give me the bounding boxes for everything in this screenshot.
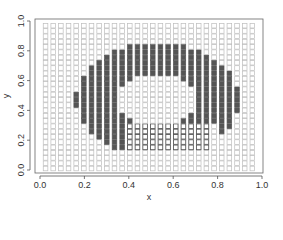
point-background [59, 113, 64, 118]
point-background [82, 39, 87, 44]
point-filled [105, 87, 110, 92]
point-background [59, 108, 64, 113]
point-filled [128, 50, 133, 55]
point-filled [74, 92, 79, 97]
point-filled [173, 60, 178, 65]
point-background [250, 113, 255, 118]
point-background [66, 50, 71, 55]
point-outlined-dark [135, 129, 140, 134]
point-background [250, 161, 255, 166]
point-background [219, 156, 224, 161]
point-background [250, 76, 255, 81]
point-filled [227, 119, 232, 124]
point-background [227, 50, 232, 55]
point-background [66, 23, 71, 28]
point-background [51, 119, 56, 124]
point-background [105, 34, 110, 39]
point-filled [212, 119, 217, 124]
point-background [89, 55, 94, 60]
point-background [89, 45, 94, 50]
point-background [150, 87, 155, 92]
point-background [235, 124, 240, 129]
point-filled [196, 60, 201, 65]
point-background [128, 150, 133, 155]
point-filled [173, 45, 178, 50]
point-background [242, 92, 247, 97]
point-background [74, 161, 79, 166]
point-background [51, 156, 56, 161]
point-filled [97, 60, 102, 65]
point-background [97, 23, 102, 28]
point-background [227, 145, 232, 150]
point-filled [166, 50, 171, 55]
point-outlined-dark [204, 145, 209, 150]
point-background [181, 92, 186, 97]
point-background [51, 34, 56, 39]
point-background [105, 29, 110, 34]
point-background [204, 34, 209, 39]
point-outlined-dark [135, 134, 140, 139]
point-background [74, 23, 79, 28]
point-background [250, 124, 255, 129]
point-background [150, 34, 155, 39]
point-background [120, 150, 125, 155]
point-background [166, 97, 171, 102]
point-filled [120, 124, 125, 129]
point-background [74, 45, 79, 50]
point-background [66, 76, 71, 81]
point-filled [82, 92, 87, 97]
point-background [51, 66, 56, 71]
point-background [227, 39, 232, 44]
x-tick-label: 0.4 [123, 180, 136, 190]
point-filled [105, 66, 110, 71]
point-background [250, 39, 255, 44]
x-tick-label: 0.8 [211, 180, 224, 190]
point-background [173, 156, 178, 161]
point-filled [105, 124, 110, 129]
point-filled [97, 134, 102, 139]
point-filled [150, 55, 155, 60]
x-axis-title: x [147, 192, 152, 202]
point-background [51, 113, 56, 118]
point-background [173, 23, 178, 28]
point-filled [212, 76, 217, 81]
point-background [97, 29, 102, 34]
point-filled [105, 60, 110, 65]
point-filled [189, 119, 194, 124]
point-background [97, 161, 102, 166]
point-background [43, 124, 48, 129]
point-background [242, 50, 247, 55]
point-filled [112, 97, 117, 102]
point-outlined-dark [173, 124, 178, 129]
point-filled [227, 87, 232, 92]
point-background [181, 150, 186, 155]
point-filled [135, 66, 140, 71]
point-filled [82, 97, 87, 102]
y-tick-label: 0.4 [16, 104, 26, 117]
point-background [166, 87, 171, 92]
point-outlined-dark [158, 134, 163, 139]
point-background [66, 161, 71, 166]
point-background [204, 161, 209, 166]
point-filled [120, 82, 125, 87]
point-filled [219, 71, 224, 76]
point-filled [212, 82, 217, 87]
point-background [43, 66, 48, 71]
point-filled [97, 92, 102, 97]
point-filled [105, 134, 110, 139]
point-background [196, 161, 201, 166]
point-background [166, 103, 171, 108]
point-background [235, 113, 240, 118]
point-filled [196, 76, 201, 81]
point-filled [181, 119, 186, 124]
point-filled [204, 71, 209, 76]
point-background [105, 23, 110, 28]
point-filled [105, 55, 110, 60]
point-filled [196, 108, 201, 113]
point-background [59, 92, 64, 97]
point-background [51, 108, 56, 113]
point-filled [227, 71, 232, 76]
point-filled [204, 97, 209, 102]
point-background [112, 23, 117, 28]
point-background [242, 145, 247, 150]
